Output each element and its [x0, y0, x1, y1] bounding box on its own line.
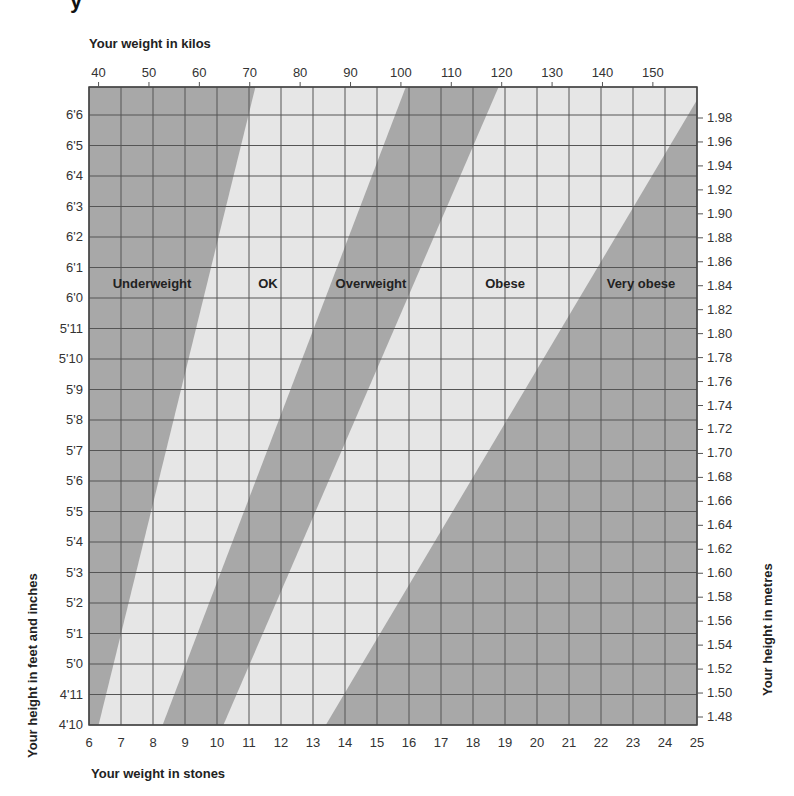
bottom-tick-label: 6	[85, 735, 92, 750]
top-tick-label: 40	[91, 65, 105, 80]
right-tick-label: 1.70	[707, 445, 732, 460]
left-tick-label: 5'8	[66, 412, 83, 427]
top-tick-label: 150	[642, 65, 664, 80]
top-tick-label: 80	[293, 65, 307, 80]
bottom-tick-label: 20	[530, 735, 544, 750]
left-tick-label: 4'11	[60, 687, 83, 702]
left-tick-label: 5'7	[66, 443, 83, 458]
zone-label: Overweight	[336, 276, 407, 291]
right-tick-label: 1.56	[707, 613, 732, 628]
bottom-tick-label: 19	[498, 735, 512, 750]
bottom-tick-label: 7	[117, 735, 124, 750]
top-tick-label: 110	[441, 65, 462, 80]
left-tick-label: 5'5	[66, 504, 83, 519]
left-tick-label: 5'6	[66, 473, 83, 488]
right-tick-label: 1.58	[707, 589, 732, 604]
left-tick-label: 5'11	[60, 321, 83, 336]
left-tick-label: 6'5	[66, 138, 83, 153]
right-tick-label: 1.60	[707, 565, 732, 580]
left-tick-label: 5'3	[66, 565, 83, 580]
bottom-tick-label: 24	[658, 735, 672, 750]
right-tick-label: 1.94	[707, 158, 732, 173]
top-tick-label: 60	[192, 65, 206, 80]
right-tick-label: 1.90	[707, 206, 732, 221]
bottom-tick-label: 16	[402, 735, 416, 750]
right-tick-label: 1.48	[707, 709, 732, 724]
bottom-tick-label: 18	[466, 735, 480, 750]
left-tick-label: 6'0	[66, 290, 83, 305]
right-tick-label: 1.84	[707, 278, 732, 293]
top-tick-label: 130	[541, 65, 563, 80]
right-tick-label: 1.74	[707, 398, 732, 413]
bottom-tick-label: 10	[210, 735, 224, 750]
bottom-tick-label: 14	[338, 735, 352, 750]
right-tick-label: 1.78	[707, 350, 732, 365]
bottom-tick-label: 17	[434, 735, 448, 750]
left-tick-label: 6'3	[66, 199, 83, 214]
bottom-tick-label: 23	[626, 735, 640, 750]
right-tick-label: 1.82	[707, 302, 732, 317]
bottom-tick-label: 11	[242, 735, 256, 750]
right-tick-label: 1.98	[707, 110, 732, 125]
right-tick-label: 1.76	[707, 374, 732, 389]
top-tick-label: 90	[343, 65, 357, 80]
right-tick-label: 1.50	[707, 685, 732, 700]
bmi-chart: 6'66'56'46'36'26'16'05'115'105'95'85'75'…	[0, 0, 794, 796]
bottom-tick-label: 12	[274, 735, 288, 750]
top-tick-label: 140	[592, 65, 614, 80]
right-tick-label: 1.66	[707, 493, 732, 508]
left-tick-label: 4'10	[59, 717, 83, 732]
bottom-tick-label: 8	[149, 735, 156, 750]
left-tick-label: 6'4	[66, 168, 83, 183]
left-tick-label: 6'2	[66, 229, 83, 244]
right-tick-label: 1.52	[707, 661, 732, 676]
left-tick-label: 5'9	[66, 382, 83, 397]
left-tick-label: 5'2	[66, 595, 83, 610]
top-tick-label: 70	[243, 65, 257, 80]
right-tick-label: 1.72	[707, 421, 732, 436]
zone-label: OK	[258, 276, 278, 291]
bottom-tick-label: 21	[562, 735, 576, 750]
right-tick-label: 1.68	[707, 469, 732, 484]
right-tick-label: 1.80	[707, 326, 732, 341]
right-tick-label: 1.86	[707, 254, 732, 269]
right-tick-label: 1.64	[707, 517, 732, 532]
left-tick-label: 5'10	[59, 351, 83, 366]
bottom-tick-label: 15	[370, 735, 384, 750]
bottom-tick-label: 25	[690, 735, 704, 750]
right-tick-label: 1.54	[707, 637, 732, 652]
top-tick-label: 120	[491, 65, 513, 80]
right-tick-label: 1.62	[707, 541, 732, 556]
top-tick-label: 100	[390, 65, 412, 80]
left-tick-label: 5'0	[66, 656, 83, 671]
left-tick-label: 6'6	[66, 107, 83, 122]
right-tick-label: 1.92	[707, 182, 732, 197]
zone-label: Very obese	[607, 276, 676, 291]
bottom-tick-label: 9	[181, 735, 188, 750]
right-tick-label: 1.88	[707, 230, 732, 245]
left-tick-label: 5'4	[66, 534, 83, 549]
zone-label: Obese	[485, 276, 525, 291]
bottom-tick-label: 13	[306, 735, 320, 750]
left-tick-label: 6'1	[66, 260, 83, 275]
left-tick-label: 5'1	[66, 626, 83, 641]
bottom-tick-label: 22	[594, 735, 608, 750]
zone-label: Underweight	[113, 276, 192, 291]
top-tick-label: 50	[142, 65, 156, 80]
right-tick-label: 1.96	[707, 134, 732, 149]
